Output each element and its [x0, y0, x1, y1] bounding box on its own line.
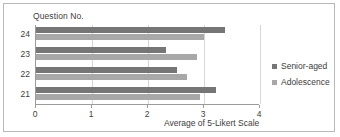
- bar-senior-aged: [36, 27, 225, 33]
- bar-senior-aged: [36, 87, 216, 93]
- bar-group: [36, 25, 259, 45]
- bar-senior-aged: [36, 47, 166, 53]
- square-marker-icon: [272, 64, 277, 69]
- legend-item: Senior-aged: [272, 61, 330, 71]
- bar-group: [36, 65, 259, 85]
- bar-group: [36, 45, 259, 65]
- x-axis-tick-mark: [91, 105, 92, 108]
- x-axis-title: Average of 5-Likert Scale: [164, 118, 259, 128]
- y-axis-tick-label: 22: [4, 69, 30, 79]
- bar-adolescence: [36, 34, 204, 40]
- x-axis-tick-label: 0: [33, 109, 38, 119]
- x-axis-tick-label: 1: [89, 109, 94, 119]
- x-axis-tick-mark: [147, 105, 148, 108]
- legend-label: Adolescence: [281, 77, 330, 87]
- y-axis-tick-label: 23: [4, 49, 30, 59]
- bar-group: [36, 85, 259, 105]
- plot-area: [35, 25, 259, 105]
- chart-container: Question No. 21222324 01234 Average of 5…: [3, 3, 335, 132]
- x-axis-tick-mark: [203, 105, 204, 108]
- y-axis-title: Question No.: [33, 11, 84, 21]
- x-axis-tick-mark: [259, 105, 260, 108]
- gridline: [260, 25, 261, 104]
- bar-adolescence: [36, 54, 197, 60]
- bar-senior-aged: [36, 67, 177, 73]
- legend-label: Senior-aged: [281, 61, 327, 71]
- bar-adolescence: [36, 94, 200, 100]
- legend-item: Adolescence: [272, 77, 330, 87]
- y-axis-tick-label: 21: [4, 89, 30, 99]
- x-axis-tick-mark: [35, 105, 36, 108]
- y-axis-tick-label: 24: [4, 29, 30, 39]
- bar-adolescence: [36, 74, 187, 80]
- chart-legend: Senior-agedAdolescence: [272, 61, 330, 93]
- x-axis-tick-label: 2: [145, 109, 150, 119]
- square-marker-icon: [272, 80, 277, 85]
